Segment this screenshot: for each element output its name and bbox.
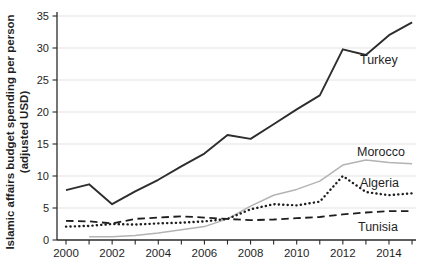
y-tick-label: 15 [37, 138, 49, 150]
x-tick-label: 2010 [284, 247, 310, 259]
y-tick-label: 10 [37, 170, 49, 182]
y-tick-label: 30 [37, 42, 49, 54]
x-tick-label: 2008 [238, 247, 264, 259]
y-axis-title-line1: Islamic affairs budget spending per pers… [4, 14, 16, 249]
x-tick-label: 2006 [192, 247, 218, 259]
x-tick-label: 2002 [99, 247, 125, 259]
y-tick-label: 5 [43, 202, 49, 214]
series-label-tunisia: Tunisia [358, 220, 398, 234]
series-label-morocco: Morocco [357, 145, 405, 159]
x-tick-label: 2012 [330, 247, 356, 259]
y-tick-label: 0 [43, 234, 49, 246]
series-label-turkey: Turkey [360, 53, 398, 67]
x-tick-label: 2004 [145, 247, 171, 259]
y-tick-label: 25 [37, 74, 49, 86]
chart-canvas: 0510152025303520002002200420062008201020… [0, 0, 422, 276]
series-label-algeria: Algeria [360, 176, 399, 190]
y-axis-title-line2: (adjusted USD) [18, 91, 30, 174]
x-tick-label: 2000 [53, 247, 79, 259]
x-tick-label: 2014 [376, 247, 402, 259]
y-tick-label: 35 [37, 10, 49, 22]
y-tick-label: 20 [37, 106, 49, 118]
chart-figure: 0510152025303520002002200420062008201020… [0, 0, 422, 276]
